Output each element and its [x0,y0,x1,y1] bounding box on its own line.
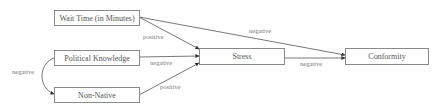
node-stress: Stress [199,48,285,65]
node-label: Wait Time (in Minutes) [59,14,134,23]
edge-label-non-native-stress: positive [160,83,181,90]
node-label: Conformity [368,52,405,61]
edge-label-stress-conformity: negative [300,60,322,67]
node-label: Stress [232,52,251,61]
edge-political-knowledge-to-stress [139,56,199,57]
edge-label-political-knowledge-stress: negative [150,59,172,66]
edge-non-native-to-stress [139,63,199,95]
edge-label-wait-time-conformity: negative [249,27,271,34]
node-label: Non-Native [78,91,116,100]
edge-label-political-knowledge-non-native: negative [12,68,34,75]
node-label: Political Knowledge [64,54,130,63]
node-political-knowledge: Political Knowledge [54,50,140,66]
node-wait-time: Wait Time (in Minutes) [54,10,140,26]
edge-label-wait-time-stress: positive [143,33,164,40]
node-non-native: Non-Native [54,87,140,103]
edge-political-knowledge-non-native-correlation [42,58,54,94]
node-conformity: Conformity [345,48,429,65]
